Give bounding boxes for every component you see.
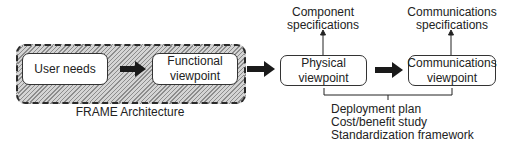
bracket-output-item: Standardization framework (331, 129, 474, 142)
arrow-right-icon (120, 61, 146, 77)
bracket-connector (324, 88, 452, 100)
arrow-up-icon (449, 30, 454, 35)
thick-arrow-icons (120, 61, 403, 78)
arrow-right-icon (247, 61, 275, 77)
arrow-up-icon (321, 30, 326, 35)
frame-architecture-diagram: User needs Functional viewpoint Physical… (0, 0, 511, 149)
arrow-right-icon (375, 62, 403, 78)
bracket-outputs-list: Deployment plan Cost/benefit study Stand… (331, 103, 474, 142)
